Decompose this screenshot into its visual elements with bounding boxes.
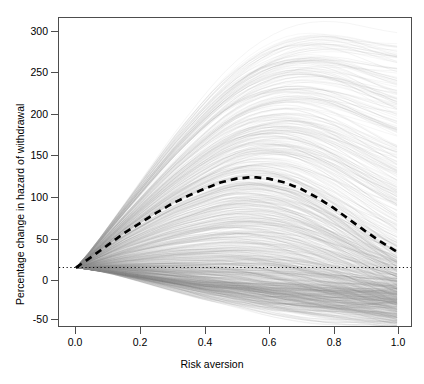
x-tick-label: 0.4 [185,337,225,348]
y-tick-mark [51,155,58,156]
y-tick-label: -50 [33,314,48,325]
x-tick-mark [205,327,206,334]
y-tick-label: 100 [30,192,48,203]
y-tick-mark [51,319,58,320]
y-axis-label: Percentage change in hazard of withdrawa… [14,104,26,305]
x-tick-label: 0.0 [55,337,95,348]
x-axis-label: Risk aversion [0,358,424,370]
bootstrap-curve-bundle [59,18,411,326]
x-tick-label: 0.8 [314,337,354,348]
y-tick-mark [51,114,58,115]
y-tick-label: 150 [30,150,48,161]
y-tick-label: 200 [30,109,48,120]
y-tick-label: 50 [36,234,48,245]
y-tick-mark [51,239,58,240]
x-tick-label: 0.2 [120,337,160,348]
x-tick-mark [269,327,270,334]
x-tick-label: 1.0 [378,337,418,348]
x-tick-label: 0.6 [249,337,289,348]
figure-root: 300 250 200 150 100 50 0 -50 Percentage … [0,0,424,384]
x-tick-mark [140,327,141,334]
x-tick-mark [75,327,76,334]
y-tick-label: 250 [30,67,48,78]
x-tick-mark [398,327,399,334]
y-tick-label: 300 [30,26,48,37]
y-tick-mark [51,31,58,32]
y-tick-mark [51,197,58,198]
y-tick-label: 0 [42,275,48,286]
x-tick-mark [334,327,335,334]
figure-caption [0,374,424,384]
y-tick-mark [51,280,58,281]
plot-area [58,17,412,327]
y-tick-mark [51,72,58,73]
